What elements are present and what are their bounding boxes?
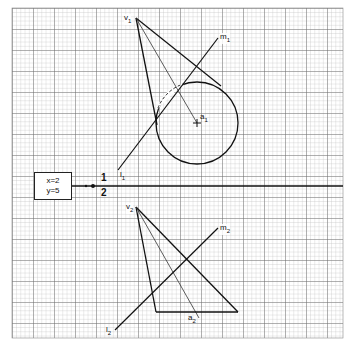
label-v1: v1	[124, 14, 131, 25]
label-m1: m1	[220, 33, 230, 44]
parameter-box: x=2 y=5	[34, 172, 72, 200]
descriptive-geometry-diagram	[0, 0, 345, 341]
label-a1: a1	[200, 113, 208, 124]
plane-label-1: 1	[101, 173, 107, 183]
param-y: y=5	[35, 186, 71, 196]
label-v2: v2	[126, 203, 133, 214]
label-l2: l2	[106, 326, 111, 337]
label-l1: l1	[120, 171, 125, 182]
param-x: x=2	[35, 176, 71, 186]
label-a2: a2	[188, 314, 196, 325]
label-m2: m2	[220, 224, 230, 235]
plane-label-2: 2	[101, 188, 107, 198]
